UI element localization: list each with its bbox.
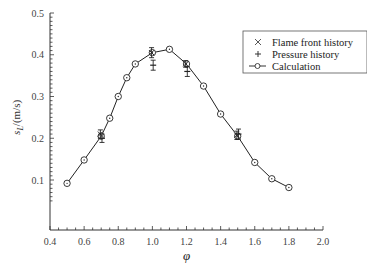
x-axis-label: φ	[183, 248, 190, 263]
speed-vs-equivalence-ratio-chart: 0.40.60.81.01.21.41.61.82.00.10.20.30.40…	[0, 0, 367, 274]
y-tick-label: 0.5	[32, 8, 45, 19]
x-tick-label: 1.2	[180, 236, 193, 247]
x-tick-label: 1.0	[146, 236, 159, 247]
x-tick-label: 0.4	[44, 236, 57, 247]
x-tick-label: 0.6	[78, 236, 91, 247]
y-axis-label: sL/(m/s)	[10, 100, 25, 135]
y-tick-label: 0.1	[32, 175, 45, 186]
x-tick-label: 0.8	[112, 236, 125, 247]
x-tick-label: 2.0	[317, 236, 330, 247]
legend-entry: Calculation	[272, 61, 321, 72]
y-tick-label: 0.3	[32, 91, 45, 102]
legend-entry: Flame front history	[272, 37, 354, 48]
y-tick-label: 0.2	[32, 133, 45, 144]
legend-entry: Pressure history	[272, 49, 340, 60]
x-tick-label: 1.6	[249, 236, 262, 247]
y-tick-label: 0.4	[32, 49, 45, 60]
x-tick-label: 1.8	[283, 236, 296, 247]
legend: Flame front historyPressure historyCalcu…	[243, 31, 367, 73]
x-tick-label: 1.4	[214, 236, 227, 247]
